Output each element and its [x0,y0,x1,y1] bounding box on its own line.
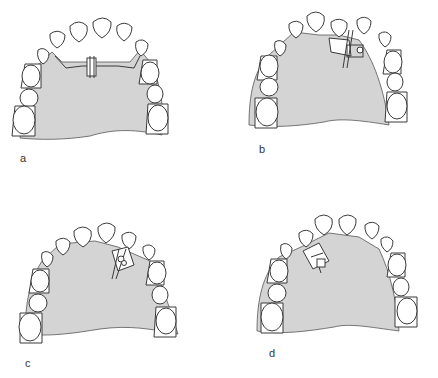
panel-d: d [219,189,438,378]
dental-arch-diagram-b [219,0,438,189]
panel-label-c: c [25,357,31,369]
panel-a: a [0,0,219,189]
panel-c: c [0,189,219,378]
dental-arch-diagram-c [0,189,219,378]
panel-b: b [219,0,438,189]
dental-arch-diagram-a [0,0,219,189]
panel-label-b: b [259,143,265,155]
molars-right [383,50,407,122]
panel-label-a: a [20,152,26,164]
dental-arch-diagram-d [219,189,438,378]
panel-label-d: d [269,347,275,359]
